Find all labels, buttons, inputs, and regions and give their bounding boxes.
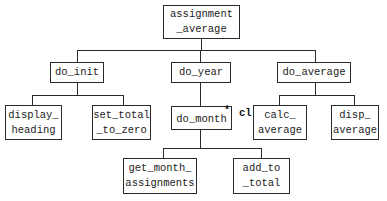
structure-chart: assignment _average do_init do_year do_a…: [0, 0, 387, 201]
connector: [261, 148, 262, 158]
connector: [77, 50, 316, 51]
connector: [315, 82, 316, 95]
connector: [201, 38, 202, 50]
connector: [315, 50, 316, 62]
node-do-month: do_month: [171, 106, 232, 130]
connector: [354, 95, 355, 105]
connector: [77, 82, 78, 95]
node-display-heading: display_ heading: [5, 105, 62, 140]
node-do-year: do_year: [171, 62, 231, 83]
do-month-annotation: cl: [239, 107, 252, 119]
node-disp-average: disp_ average: [331, 105, 379, 140]
connector: [200, 50, 201, 62]
node-calc-average: calc_ average: [253, 105, 307, 140]
node-assignment-average: assignment _average: [163, 5, 240, 39]
connector: [279, 95, 280, 105]
connector: [279, 95, 355, 96]
connector: [163, 148, 164, 158]
connector: [77, 50, 78, 62]
connector: [200, 129, 201, 148]
connector: [32, 95, 33, 105]
node-set-total-to-zero: set_total _to_zero: [92, 105, 151, 140]
connector: [200, 82, 201, 106]
connector: [163, 148, 262, 149]
node-get-month-assignments: get_month_ assignments: [123, 158, 197, 194]
connector: [32, 95, 124, 96]
connector: [123, 95, 124, 105]
node-add-to-total: add_to _total: [233, 158, 290, 194]
node-do-average: do_average: [277, 62, 351, 83]
loop-marker-asterisk: *: [224, 105, 230, 116]
node-do-init: do_init: [50, 62, 104, 83]
